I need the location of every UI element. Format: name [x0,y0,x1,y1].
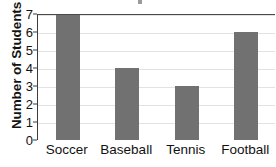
bar-baseball [115,68,139,140]
y-tick-label: 7 [26,8,33,21]
bar-football [234,32,258,140]
bar-tennis [175,86,199,140]
y-tick-label: 1 [26,116,33,129]
x-label-baseball: Baseball [97,143,157,158]
plot-area [37,14,275,140]
x-label-soccer: Soccer [37,143,97,158]
x-label-tennis: Tennis [156,143,216,158]
y-tick-label: 2 [26,98,33,111]
bar-chart-figure: Number of Students 01234567 SoccerBaseba… [0,0,275,167]
y-tick-label: 3 [26,80,33,93]
bars-group [38,15,275,140]
x-axis-category-labels: SoccerBaseballTennisFootball [37,143,275,167]
x-label-football: Football [216,143,276,158]
bar-soccer [56,14,80,140]
y-tick-label: 4 [26,62,33,75]
cropped-title-remnant [138,0,142,4]
y-tick-label: 6 [26,26,33,39]
y-tick-label: 0 [26,134,33,147]
y-axis-tick-labels: 01234567 [20,14,33,140]
y-tick-label: 5 [26,44,33,57]
